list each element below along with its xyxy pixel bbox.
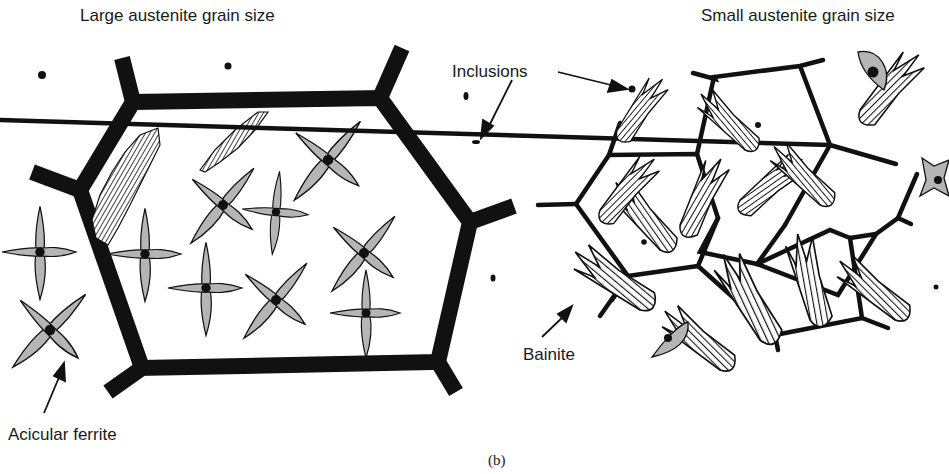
diagram: Large austenite grain size Small austeni… — [0, 0, 949, 474]
bainite-sheaves — [566, 46, 931, 383]
label-acicular-ferrite: Acicular ferrite — [8, 425, 117, 445]
acicular-ferrite — [0, 94, 424, 395]
label-inclusions: Inclusions — [452, 62, 528, 82]
title-large-grain: Large austenite grain size — [80, 6, 275, 26]
label-bainite: Bainite — [523, 345, 575, 365]
figure-caption: (b) — [488, 452, 506, 469]
title-small-grain: Small austenite grain size — [701, 6, 895, 26]
